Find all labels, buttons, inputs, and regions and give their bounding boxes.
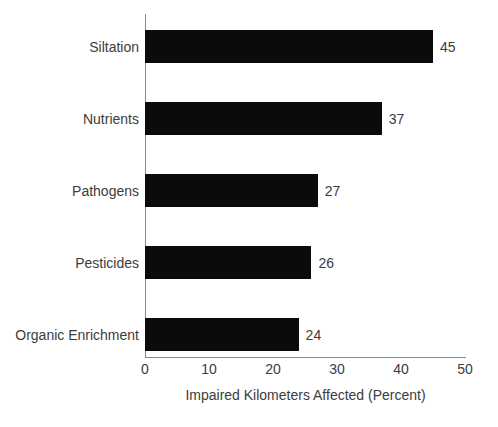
category-label: Organic Enrichment	[0, 328, 139, 342]
bar	[145, 174, 318, 207]
x-tick-label: 50	[445, 362, 485, 376]
category-label: Siltation	[0, 40, 139, 54]
x-axis-line	[145, 357, 466, 358]
bar-value-label: 26	[318, 256, 334, 270]
bar-value-label: 24	[306, 328, 322, 342]
bar-chart: 45Siltation37Nutrients27Pathogens26Pesti…	[0, 0, 498, 427]
x-tick-label: 20	[253, 362, 293, 376]
bar-value-label: 37	[389, 112, 405, 126]
x-axis-title: Impaired Kilometers Affected (Percent)	[145, 388, 466, 402]
bottom-caption-sliver	[150, 420, 480, 424]
bar-row: 24	[145, 318, 465, 351]
bar	[145, 102, 382, 135]
x-tick-label: 0	[125, 362, 165, 376]
x-tick-label: 40	[381, 362, 421, 376]
bar-value-label: 45	[440, 40, 456, 54]
bar-row: 45	[145, 30, 465, 63]
bar-row: 37	[145, 102, 465, 135]
x-tick-label: 10	[189, 362, 229, 376]
bar	[145, 30, 433, 63]
bar-value-label: 27	[325, 184, 341, 198]
category-label: Nutrients	[0, 112, 139, 126]
bar-row: 27	[145, 174, 465, 207]
category-label: Pathogens	[0, 184, 139, 198]
bar	[145, 246, 311, 279]
category-label: Pesticides	[0, 256, 139, 270]
bar	[145, 318, 299, 351]
x-tick-label: 30	[317, 362, 357, 376]
bar-row: 26	[145, 246, 465, 279]
